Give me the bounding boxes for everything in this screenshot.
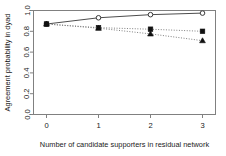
y-tick-label: 1.0 (23, 5, 32, 16)
x-tick-label: 2 (148, 121, 152, 130)
marker-open-circle (96, 15, 101, 20)
x-tick-label: 1 (96, 121, 100, 130)
y-axis-title: Agreement probability in dyad (3, 14, 12, 112)
x-tick-label: 3 (200, 121, 204, 130)
x-axis-title: Number of candidate supporters in residu… (40, 140, 210, 149)
marker-open-circle (200, 11, 205, 16)
y-tick-label: 0.0 (23, 109, 32, 120)
x-tick-label: 0 (44, 121, 48, 130)
chart-figure: 0.00.20.40.60.81.0 0123 Number of candid… (0, 0, 226, 156)
y-tick-label: 0.4 (23, 68, 32, 79)
y-tick-label: 0.8 (23, 26, 32, 37)
agreement-probability-line-chart: 0.00.20.40.60.81.0 0123 Number of candid… (0, 0, 226, 156)
marker-filled-square (200, 29, 205, 34)
y-tick-label: 0.2 (23, 88, 32, 99)
marker-open-circle (148, 12, 153, 17)
y-tick-label: 0.6 (23, 47, 32, 58)
